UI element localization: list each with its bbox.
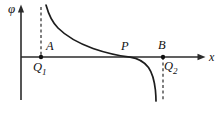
charge-label-q2: Q2: [164, 60, 178, 76]
charge-label-q2-base: Q: [164, 59, 173, 73]
charge-label-q2-subscript: 2: [173, 66, 178, 76]
potential-curve: [46, 5, 156, 101]
charge-label-q1: Q1: [33, 61, 47, 77]
charge-label-q1-subscript: 1: [42, 67, 47, 77]
figure-canvas: [0, 0, 219, 116]
phi-axis-label: φ: [8, 2, 15, 15]
x-axis-label: x: [209, 51, 214, 63]
charge-label-q1-base: Q: [33, 60, 42, 74]
point-label-p: P: [121, 40, 129, 53]
phi-axis-arrowhead: [18, 5, 24, 13]
point-label-b: B: [158, 39, 166, 52]
point-label-a: A: [46, 40, 54, 53]
charge-dot-q1: [39, 55, 43, 59]
potential-figure: φ x A P B Q1 Q2: [0, 0, 219, 116]
x-axis-arrowhead: [198, 54, 206, 60]
